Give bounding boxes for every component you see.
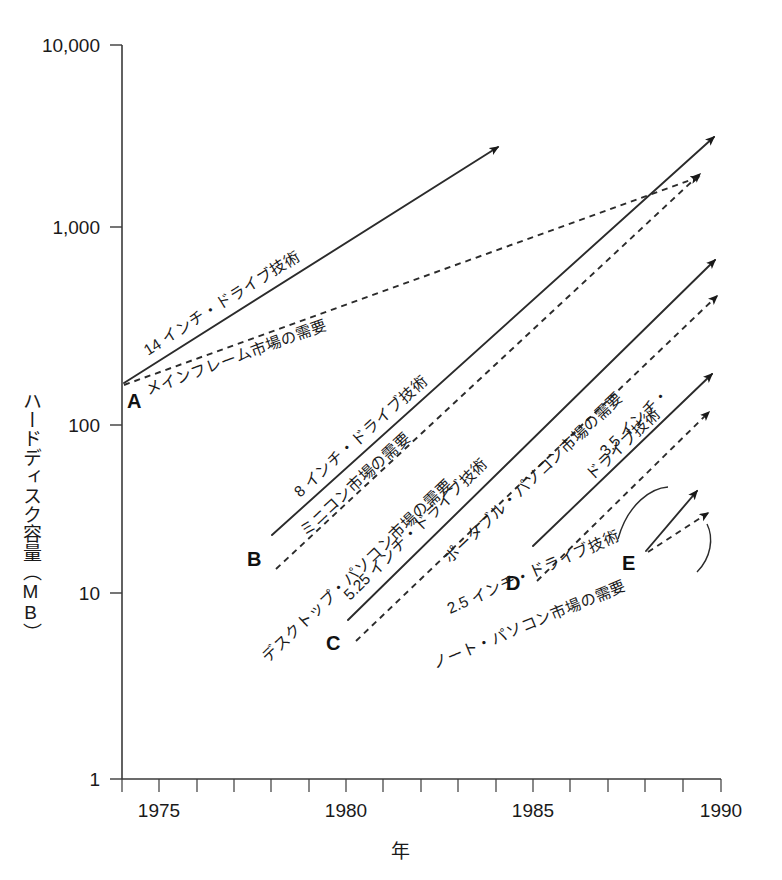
hard-disk-capacity-log-chart: 10,000 1,000 100 10 1 1975 1980 1985 199… <box>0 0 782 880</box>
point-label-c: C <box>326 632 340 654</box>
x-tick-label-1985: 1985 <box>512 800 554 821</box>
point-label-a: A <box>127 390 141 412</box>
y-axis <box>110 45 122 779</box>
point-label-e: E <box>622 552 635 574</box>
label-notebook-pc-demand: ノート・パソコン市場の需要 <box>430 576 629 671</box>
x-tick-label-1975: 1975 <box>138 800 180 821</box>
y-tick-label-1: 1 <box>89 769 100 790</box>
series-annotation-labels: 14 インチ・ドライブ技術 メインフレーム市場の需要 8 インチ・ドライブ技術 … <box>140 246 673 671</box>
y-tick-label-10: 10 <box>79 583 100 604</box>
y-tick-label-1000: 1,000 <box>52 217 100 238</box>
y-tick-labels: 10,000 1,000 100 10 1 <box>42 35 100 790</box>
y-axis-title: ハードディスク容量（MB） <box>6 316 40 716</box>
series-notebook-pc-demand <box>648 513 708 552</box>
label-desktop-pc-demand: デスクトップ・パソコン市場の需要 <box>258 475 456 665</box>
x-axis <box>122 779 721 792</box>
x-tick-label-1990: 1990 <box>700 800 742 821</box>
series-8inch-drive <box>272 137 714 535</box>
x-tick-label-1980: 1980 <box>325 800 367 821</box>
series-25inch-drive <box>646 491 697 551</box>
series-14inch-drive <box>124 147 498 383</box>
y-tick-label-10000: 10,000 <box>42 35 100 56</box>
chart-figure: 10,000 1,000 100 10 1 1975 1980 1985 199… <box>0 0 782 880</box>
x-tick-labels: 1975 1980 1985 1990 <box>138 800 742 821</box>
y-tick-label-100: 100 <box>68 415 100 436</box>
x-axis-title: 年 <box>391 841 410 862</box>
point-label-b: B <box>247 548 261 570</box>
series-mainframe-demand <box>124 177 699 385</box>
